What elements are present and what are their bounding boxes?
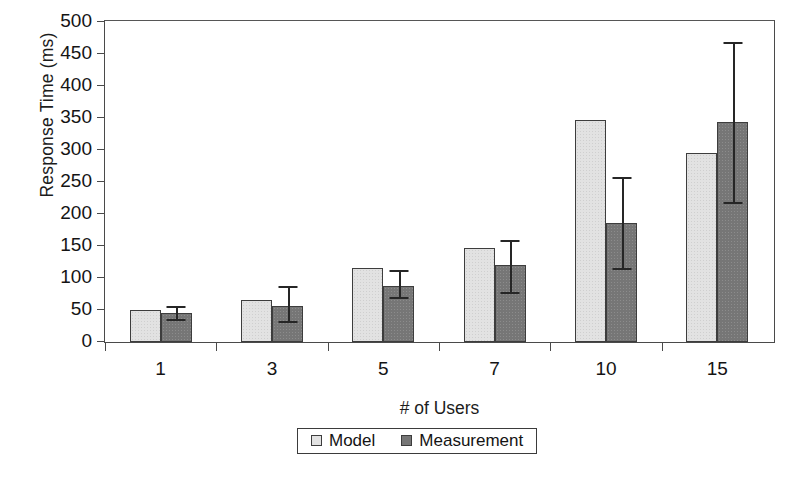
legend-item-model: Model [311,431,375,451]
y-axis-tick [97,21,105,22]
error-bar-cap-lower [278,321,297,323]
bar-model [352,268,383,342]
y-axis-tick [97,245,105,246]
error-bar-stem [399,270,401,296]
error-bar-cap-lower [612,268,631,270]
y-axis-tick [97,53,105,54]
x-axis-title: # of Users [104,398,775,419]
y-axis-tick-label: 100 [22,266,92,288]
error-bar-measurement [717,22,748,342]
error-bar-measurement [495,22,526,342]
legend-label-model: Model [329,431,375,451]
error-bar-cap-upper [278,286,297,288]
y-axis-tick [97,149,105,150]
x-axis-tick-label: 10 [595,358,616,380]
error-bar-measurement [272,22,303,342]
error-bar-cap-lower [501,292,520,294]
x-axis-tick [550,342,551,351]
error-bar-cap-lower [167,319,186,321]
error-bar-cap-lower [723,202,742,204]
y-axis-tick [97,213,105,214]
x-axis-tick-label: 5 [378,358,389,380]
y-axis-tick [97,277,105,278]
y-axis-tick-label: 350 [22,106,92,128]
y-axis-tick-label: 400 [22,74,92,96]
error-bar-cap-upper [612,177,631,179]
bar-model [686,153,717,342]
legend-label-measurement: Measurement [419,431,523,451]
bar-model [464,248,495,342]
y-axis-tick [97,117,105,118]
error-bar-measurement [161,22,192,342]
y-axis-tick-label: 50 [22,298,92,320]
plot-inner: 05010015020025030035040045050013571015 [105,21,774,342]
y-axis-tick-label: 450 [22,42,92,64]
x-axis-tick [662,342,663,351]
y-axis-tick-label: 300 [22,138,92,160]
dark-gray-square-icon [401,435,412,446]
legend-item-measurement: Measurement [401,431,523,451]
plot-area: 05010015020025030035040045050013571015 [104,20,775,343]
y-axis-tick-label: 250 [22,170,92,192]
bar-model [241,300,272,342]
x-axis-tick [216,342,217,351]
y-axis-tick-label: 500 [22,10,92,32]
y-axis-tick [97,341,105,342]
x-axis-tick-label: 1 [155,358,166,380]
error-bar-measurement [383,22,414,342]
bar-chart-figure: Response Time (ms) 050100150200250300350… [0,0,791,478]
error-bar-cap-upper [723,42,742,44]
error-bar-stem [622,177,624,268]
y-axis-tick-label: 150 [22,234,92,256]
y-axis-tick-label: 0 [22,330,92,352]
y-axis-tick [97,85,105,86]
chart-legend: Model Measurement [297,428,537,454]
bar-model [575,120,606,342]
error-bar-cap-upper [167,306,186,308]
error-bar-stem [510,240,512,292]
light-gray-square-icon [311,435,322,446]
error-bar-cap-upper [501,240,520,242]
error-bar-cap-lower [389,297,408,299]
y-axis-tick [97,309,105,310]
y-axis-tick-label: 200 [22,202,92,224]
error-bar-stem [733,42,735,202]
error-bar-measurement [606,22,637,342]
x-axis-tick [328,342,329,351]
x-axis-tick-label: 15 [707,358,728,380]
x-axis-tick-label: 7 [489,358,500,380]
x-axis-tick-label: 3 [267,358,278,380]
bar-model [130,310,161,342]
error-bar-cap-upper [389,270,408,272]
x-axis-tick [439,342,440,351]
y-axis-tick [97,181,105,182]
x-axis-tick [105,342,106,351]
error-bar-stem [288,286,290,321]
